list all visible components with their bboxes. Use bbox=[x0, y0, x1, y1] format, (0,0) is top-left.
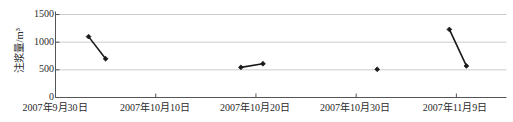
data-point-segment-4-0 bbox=[447, 27, 452, 32]
plot-area bbox=[0, 0, 513, 122]
series-line bbox=[449, 29, 466, 66]
series-segment-1 bbox=[86, 34, 108, 61]
x-axis-ticks bbox=[56, 94, 457, 98]
data-point-segment-2-1 bbox=[261, 61, 266, 66]
series-segment-4 bbox=[447, 27, 469, 68]
y-axis-ticks bbox=[56, 15, 60, 98]
series-line bbox=[89, 37, 106, 59]
series-point-3 bbox=[375, 67, 380, 72]
data-point-point-3-0 bbox=[375, 67, 380, 72]
series-segment-2 bbox=[239, 61, 266, 69]
data-series bbox=[86, 27, 469, 72]
gridlines bbox=[56, 15, 507, 70]
series-line bbox=[241, 64, 263, 68]
chart-container: 注浆量/m³ 1500 1000 500 0 2007年9月30日 2007年1… bbox=[0, 0, 513, 122]
data-point-segment-2-0 bbox=[239, 65, 244, 70]
axis-frame bbox=[56, 12, 507, 98]
data-point-segment-4-1 bbox=[464, 64, 469, 69]
